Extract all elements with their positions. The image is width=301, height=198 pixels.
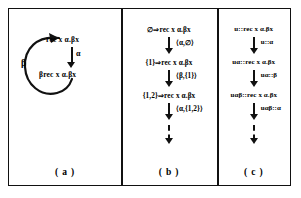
chain-step: ⟨α,∅⟩ [121, 35, 217, 57]
dashed-arrow-head-icon [250, 138, 258, 144]
chain-step: ⟨β,{1}⟩ [121, 68, 217, 90]
dashed-arrow-head-icon [165, 138, 173, 144]
panel-a: rec x α.βx α βrec x α.βx β ( a ) [9, 9, 121, 185]
chain-node: u::rec x α.βx [217, 24, 291, 35]
chain-step: uαβ::α [217, 101, 291, 123]
term-beta-rec: βrec x α.βx [39, 70, 76, 79]
arrow-head-icon [250, 81, 258, 87]
chain-node: ∅⇒rec x α.βx [121, 24, 217, 35]
chain-edge-label: ⟨α,{1,2}⟩ [176, 104, 203, 113]
chain-node: uα::rec x α.βx [217, 57, 291, 68]
chain-step: ⟨α,{1,2}⟩ [121, 101, 217, 123]
chain-step-continuation [217, 123, 291, 149]
chain-node: {1}⇒rec x α.βx [121, 57, 217, 68]
arrow-head-icon [250, 48, 258, 54]
chain-step-continuation [121, 123, 217, 149]
arrow-head-icon [165, 114, 173, 120]
panel-b: ∅⇒rec x α.βx ⟨α,∅⟩ {1}⇒rec x α.βx ⟨β,{1}… [121, 9, 217, 185]
edge-label-alpha: α [76, 49, 80, 58]
chain-edge-label: uα::β [261, 71, 277, 79]
chain-edge-label: ⟨β,{1}⟩ [176, 71, 197, 80]
chain-edge-label: uαβ::α [261, 104, 281, 112]
term-rec: rec x α.βx [46, 35, 79, 44]
arrow-head-icon [165, 48, 173, 54]
derivation-chain-b: ∅⇒rec x α.βx ⟨α,∅⟩ {1}⇒rec x α.βx ⟨β,{1}… [121, 24, 217, 149]
chain-edge-label: ⟨α,∅⟩ [176, 38, 194, 47]
panel-label-b: ( b ) [121, 167, 217, 177]
arrow-head-icon [250, 114, 258, 120]
chain-edge-label: u::α [261, 38, 273, 46]
chain-node: uαβ::rec x α.βx [217, 90, 291, 101]
chain-step: uα::β [217, 68, 291, 90]
arrow-head-icon [165, 81, 173, 87]
panel-label-a: ( a ) [9, 167, 121, 177]
edge-label-beta: β [21, 58, 26, 68]
figure-container: rec x α.βx α βrec x α.βx β ( a ) ∅⇒rec x… [8, 8, 291, 186]
chain-node: {1,2}⇒rec x α.βx [121, 90, 217, 101]
alpha-arrow-head-icon [67, 62, 75, 68]
chain-step: u::α [217, 35, 291, 57]
panel-label-c: ( c ) [217, 167, 291, 177]
panel-c: u::rec x α.βx u::α uα::rec x α.βx uα::β … [217, 9, 291, 185]
derivation-chain-c: u::rec x α.βx u::α uα::rec x α.βx uα::β … [217, 24, 291, 149]
